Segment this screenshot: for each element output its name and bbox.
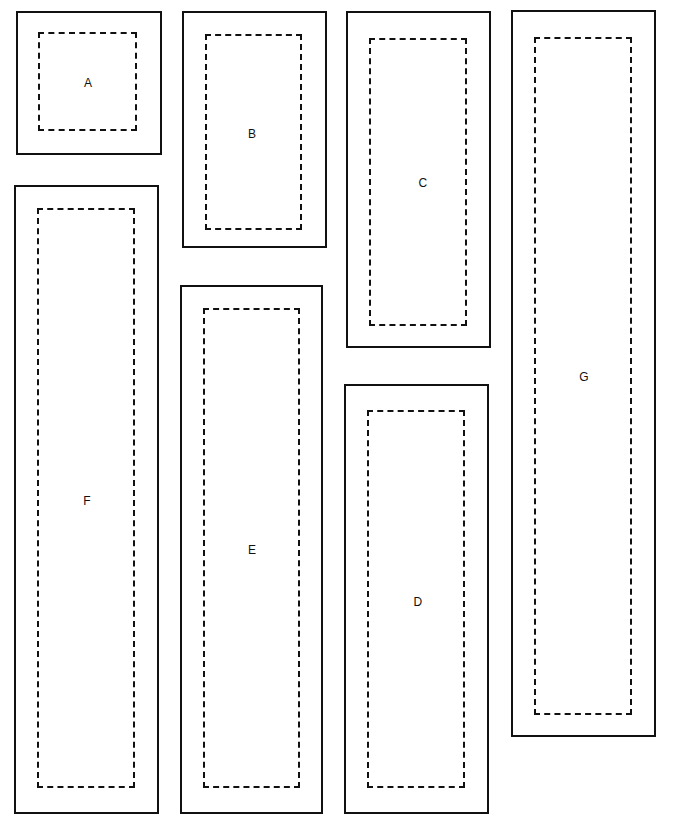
shape-g-label: G [579, 371, 589, 383]
shape-a-label: A [84, 77, 92, 89]
shape-b-label: B [248, 128, 256, 140]
shape-c-label: C [419, 177, 428, 189]
shape-e-label: E [248, 544, 256, 556]
diagram-canvas: ABCGFED [0, 0, 677, 832]
shape-f-label: F [83, 495, 91, 507]
shape-d-label: D [414, 596, 423, 608]
